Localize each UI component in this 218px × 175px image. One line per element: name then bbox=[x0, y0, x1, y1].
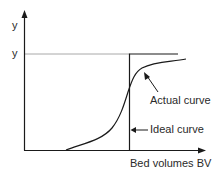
actual-curve-label: Actual curve bbox=[150, 95, 211, 106]
actual-curve-pointer bbox=[147, 76, 158, 92]
breakthrough-diagram bbox=[0, 0, 218, 175]
ideal-curve-pointer-arrow-icon bbox=[131, 127, 137, 133]
y-level-label: y bbox=[12, 48, 18, 59]
ideal-curve-label: Ideal curve bbox=[150, 124, 204, 135]
y-axis-arrow-icon bbox=[22, 10, 28, 18]
y-axis-label: y bbox=[12, 20, 18, 31]
x-axis-arrow-icon bbox=[198, 148, 206, 154]
x-axis-label: Bed volumes BV bbox=[130, 158, 211, 169]
